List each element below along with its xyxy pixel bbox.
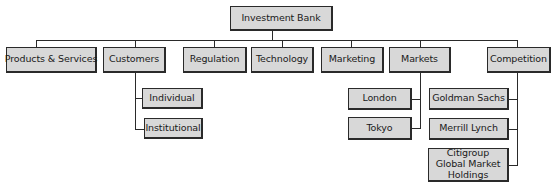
customers-children-spine: [135, 73, 136, 130]
node-regulation: Regulation: [183, 47, 247, 73]
markets-children-spine: [420, 73, 421, 129]
connector-goldman-sachs: [508, 99, 518, 100]
node-individual: Individual: [142, 88, 203, 109]
node-goldman-sachs: Goldman Sachs: [429, 88, 509, 110]
node-products-services: Products & Services: [6, 47, 97, 73]
node-competition: Competition: [487, 47, 551, 73]
connector-london: [411, 99, 421, 100]
node-tokyo: Tokyo: [348, 117, 412, 140]
competition-children-spine: [517, 72, 518, 166]
connector-institutional: [135, 129, 144, 130]
node-london: London: [348, 88, 412, 110]
node-marketing: Marketing: [321, 47, 384, 73]
connector-citigroup: [508, 165, 518, 166]
connector-merrill-lynch: [508, 129, 518, 130]
node-institutional: Institutional: [144, 118, 203, 139]
node-citigroup-global-market-holdings: Citigroup Global Market Holdings: [428, 148, 509, 182]
connector-tokyo: [411, 128, 421, 129]
node-merrill-lynch: Merrill Lynch: [429, 118, 509, 140]
node-technology: Technology: [251, 47, 314, 73]
node-customers: Customers: [103, 47, 166, 73]
department-bus-line: [36, 40, 518, 41]
node-markets: Markets: [389, 47, 451, 73]
node-investment-bank: Investment Bank: [230, 6, 333, 31]
